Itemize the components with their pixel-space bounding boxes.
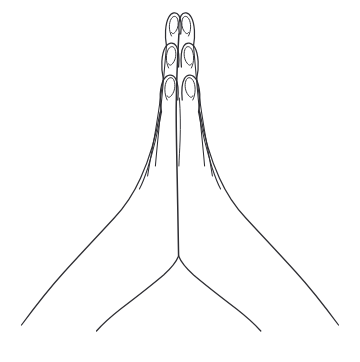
canvas-background xyxy=(0,0,360,362)
artboard: Praying Hands Black line drawing of two … xyxy=(0,0,360,362)
praying-hands-illustration: Praying Hands Black line drawing of two … xyxy=(0,0,360,362)
